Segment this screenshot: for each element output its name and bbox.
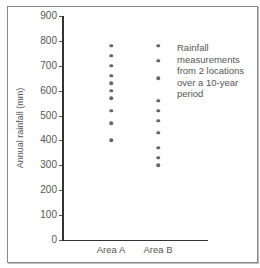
data-point: [156, 44, 160, 48]
data-point: [109, 109, 113, 113]
x-label-area-b: Area B: [143, 244, 172, 255]
data-point: [156, 119, 160, 123]
chart-annotation: Rainfall measurements from 2 locations o…: [177, 42, 255, 100]
data-point: [109, 64, 113, 68]
data-point: [109, 44, 113, 48]
y-tick-label: 200: [40, 185, 57, 195]
y-tick-label: 700: [40, 61, 57, 71]
data-point: [109, 96, 113, 100]
y-axis-label: Annual rainfall (mm): [15, 88, 25, 169]
data-point: [156, 164, 160, 168]
x-axis-line: [62, 240, 208, 242]
x-label-area-a: Area A: [97, 244, 126, 255]
y-axis-line: [62, 16, 64, 241]
data-point: [109, 121, 113, 125]
data-point: [109, 89, 113, 93]
data-point: [109, 74, 113, 78]
data-point: [156, 59, 160, 63]
y-tick-label: 0: [51, 235, 57, 245]
y-tick-label: 600: [40, 86, 57, 96]
y-tick-label: 500: [40, 111, 57, 121]
y-tick-label: 100: [40, 210, 57, 220]
y-tick-label: 800: [40, 36, 57, 46]
y-tick-label: 400: [40, 135, 57, 145]
data-point: [109, 81, 113, 85]
data-point: [156, 131, 160, 135]
data-point: [156, 146, 160, 150]
data-point: [109, 54, 113, 58]
data-point: [156, 109, 160, 113]
y-tick-label: 900: [40, 11, 57, 21]
data-point: [109, 139, 113, 143]
data-point: [156, 99, 160, 103]
y-tick-label: 300: [40, 160, 57, 170]
data-point: [156, 76, 160, 80]
data-point: [156, 156, 160, 160]
